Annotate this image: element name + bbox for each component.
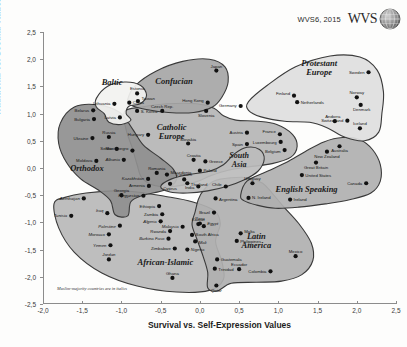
country-dot[interactable] [292, 94, 296, 98]
country-point[interactable]: Canada [347, 181, 368, 186]
cluster-label-confucian: Confucian [155, 76, 193, 86]
country-dot[interactable] [146, 177, 150, 181]
country-dot[interactable] [168, 229, 172, 233]
country-dot[interactable] [364, 181, 368, 185]
country-label: Kyrgyzstan [118, 193, 140, 198]
country-dot[interactable] [185, 248, 189, 252]
country-dot[interactable] [159, 219, 163, 223]
country-dot[interactable] [366, 70, 370, 74]
country-dot[interactable] [170, 276, 174, 280]
country-dot[interactable] [190, 233, 194, 237]
country-dot[interactable] [92, 117, 96, 121]
country-dot[interactable] [245, 131, 249, 135]
country-point[interactable]: Austria [230, 130, 249, 135]
country-dot[interactable] [239, 104, 243, 108]
country-point[interactable]: Poland [198, 168, 218, 173]
country-dot[interactable] [118, 115, 122, 119]
country-dot[interactable] [166, 237, 170, 241]
country-dot[interactable] [141, 194, 145, 198]
country-dot[interactable] [107, 257, 111, 261]
country-dot[interactable] [245, 142, 249, 146]
country-dot[interactable] [193, 239, 197, 243]
country-dot[interactable] [355, 95, 359, 99]
country-dot[interactable] [213, 196, 217, 200]
country-dot[interactable] [91, 108, 95, 112]
country-point[interactable]: Ukraine [74, 136, 95, 141]
country-dot[interactable] [108, 243, 112, 247]
country-dot[interactable] [130, 148, 134, 152]
country-dot[interactable] [215, 257, 219, 261]
country-dot[interactable] [203, 159, 207, 163]
country-dot[interactable] [239, 231, 243, 235]
country-dot[interactable] [135, 91, 139, 95]
country-dot[interactable] [135, 109, 139, 113]
country-dot[interactable] [157, 204, 161, 208]
country-dot[interactable] [288, 197, 292, 201]
country-dot[interactable] [235, 239, 239, 243]
country-point[interactable]: Nigeria [185, 247, 205, 252]
country-point[interactable]: Ethiopia [140, 204, 162, 209]
country-dot[interactable] [283, 148, 287, 152]
country-dot[interactable] [278, 132, 282, 136]
country-dot[interactable] [333, 119, 337, 123]
country-dot[interactable] [186, 141, 190, 145]
country-dot[interactable] [198, 169, 202, 173]
country-dot[interactable] [118, 224, 122, 228]
country-dot[interactable] [214, 69, 218, 73]
country-dot[interactable] [182, 177, 186, 181]
country-dot[interactable] [345, 119, 349, 123]
country-dot[interactable] [192, 158, 196, 162]
country-point[interactable]: Latvia [104, 115, 122, 120]
country-dot[interactable] [224, 184, 228, 188]
country-dot[interactable] [300, 173, 304, 177]
country-label: Croatia [187, 153, 201, 158]
country-dot[interactable] [212, 211, 216, 215]
country-point[interactable]: Brazil [199, 210, 216, 215]
country-dot[interactable] [173, 246, 177, 250]
country-dot[interactable] [268, 269, 272, 273]
country-dot[interactable] [146, 133, 150, 137]
country-dot[interactable] [127, 101, 131, 105]
country-dot[interactable] [196, 222, 200, 226]
country-point[interactable]: Ireland [288, 197, 307, 202]
country-dot[interactable] [82, 196, 86, 200]
country-dot[interactable] [293, 254, 297, 258]
country-dot[interactable] [112, 102, 116, 106]
country-dot[interactable] [69, 214, 73, 218]
country-dot[interactable] [295, 100, 299, 104]
country-dot[interactable] [160, 109, 164, 113]
country-point[interactable]: Spain [232, 142, 249, 147]
country-dot[interactable] [206, 101, 210, 105]
country-dot[interactable] [107, 232, 111, 236]
country-dot[interactable] [246, 196, 250, 200]
country-dot[interactable] [358, 126, 362, 130]
country-dot[interactable] [196, 184, 200, 188]
country-point[interactable]: Yemen [93, 243, 112, 248]
country-dot[interactable] [202, 224, 206, 228]
country-point[interactable]: Greece [203, 159, 223, 164]
country-point[interactable]: Albania [104, 157, 125, 162]
country-dot[interactable] [213, 267, 217, 271]
country-dot[interactable] [279, 140, 283, 144]
country-dot[interactable] [250, 181, 254, 185]
country-dot[interactable] [105, 211, 109, 215]
country-point[interactable]: Sweden [349, 70, 371, 75]
country-point[interactable]: Algeria [142, 219, 162, 224]
country-dot[interactable] [155, 171, 159, 175]
y-tick-label: 2,5 [27, 29, 36, 36]
country-point[interactable]: Germany [219, 103, 243, 108]
country-dot[interactable] [90, 136, 94, 140]
country-dot[interactable] [237, 267, 241, 271]
country-point[interactable]: Tunisia [54, 213, 74, 218]
country-dot[interactable] [181, 225, 185, 229]
country-dot[interactable] [107, 135, 111, 139]
country-point[interactable]: China [127, 100, 144, 105]
country-point[interactable]: United States [300, 173, 331, 178]
country-dot[interactable] [122, 158, 126, 162]
country-point[interactable]: Belarus [75, 108, 96, 113]
country-point[interactable]: Zambia [144, 212, 164, 217]
country-dot[interactable] [160, 212, 164, 216]
country-label: Japan [211, 64, 223, 69]
country-dot[interactable] [165, 172, 169, 176]
country-dot[interactable] [147, 184, 151, 188]
